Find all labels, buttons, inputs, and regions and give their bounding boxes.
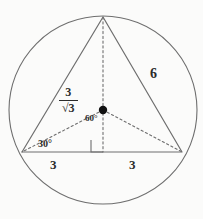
base-right-half-label: 3 bbox=[129, 158, 136, 171]
center-angle-label: 60° bbox=[85, 114, 98, 123]
right-angle-square bbox=[91, 140, 103, 152]
geometry-figure: 6 3 3 60° 30° 3 √3 bbox=[0, 0, 203, 219]
inradius-fraction: 3 √3 bbox=[59, 86, 78, 114]
inradius-numerator: 3 bbox=[59, 86, 78, 99]
radical-sign-icon: √3 bbox=[61, 102, 76, 115]
circumcenter-dot bbox=[99, 106, 107, 114]
base-angle-label: 30° bbox=[38, 139, 52, 149]
equilateral-triangle bbox=[22, 17, 182, 152]
radicand: 3 bbox=[68, 100, 76, 115]
side-length-label: 6 bbox=[150, 67, 157, 81]
base-left-half-label: 3 bbox=[50, 158, 57, 171]
figure-canvas bbox=[0, 0, 203, 219]
inradius-denominator: √3 bbox=[59, 102, 78, 115]
